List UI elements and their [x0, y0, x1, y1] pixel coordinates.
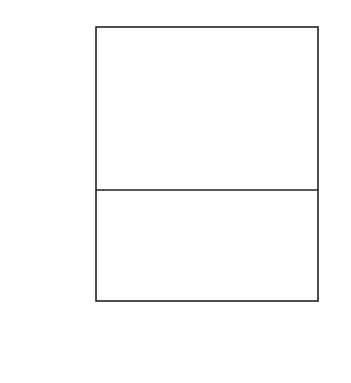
plot-frame — [96, 27, 318, 301]
figure — [0, 0, 351, 383]
